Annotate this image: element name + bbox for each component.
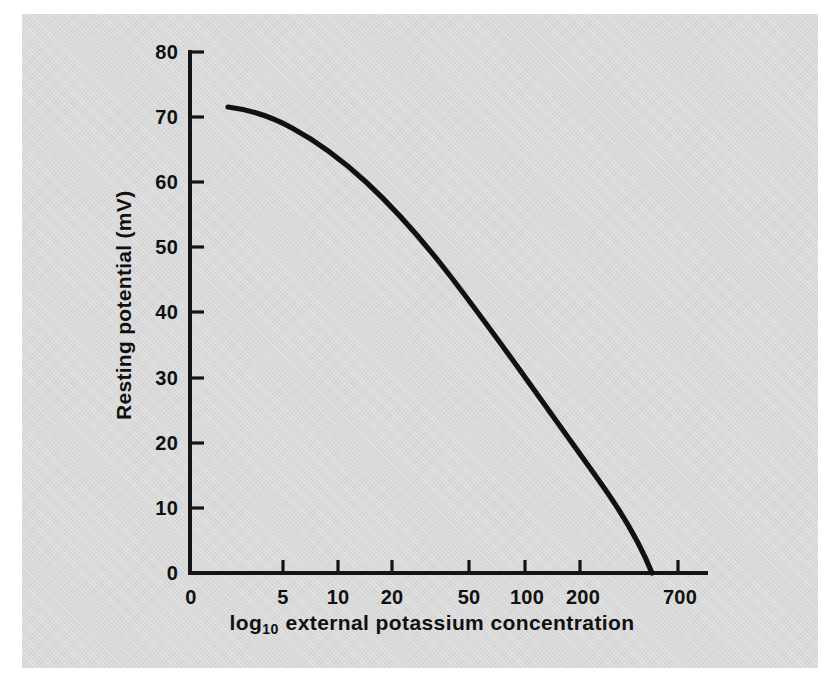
x-tick-label-200: 200: [566, 586, 600, 609]
x-tick-label-50: 50: [458, 586, 481, 609]
x-tick-label-100: 100: [510, 586, 544, 609]
resting-potential-curve: [228, 107, 652, 573]
y-tick-label-10: 10: [126, 497, 178, 520]
x-axis-title: log10external potassium concentration: [230, 611, 635, 635]
x-axis-title-prefix: log10: [230, 611, 279, 634]
x-tick-label-20: 20: [381, 586, 404, 609]
y-axis-title: Resting potential (mV): [112, 191, 136, 420]
y-tick-label-80: 80: [126, 41, 178, 64]
y-tick-label-70: 70: [126, 106, 178, 129]
x-tick-label-700: 700: [663, 586, 697, 609]
y-tick-label-20: 20: [126, 432, 178, 455]
x-tick-label-10: 10: [327, 586, 350, 609]
x-tick-label-5: 5: [277, 586, 288, 609]
x-axis-title-log: log: [230, 611, 263, 634]
x-axis-title-rest: external potassium concentration: [286, 611, 635, 634]
x-axis-title-subscript: 10: [262, 621, 278, 637]
x-tick-label-0: 0: [185, 586, 196, 609]
y-axis-ticks: [190, 52, 204, 508]
y-tick-label-0: 0: [126, 562, 178, 585]
